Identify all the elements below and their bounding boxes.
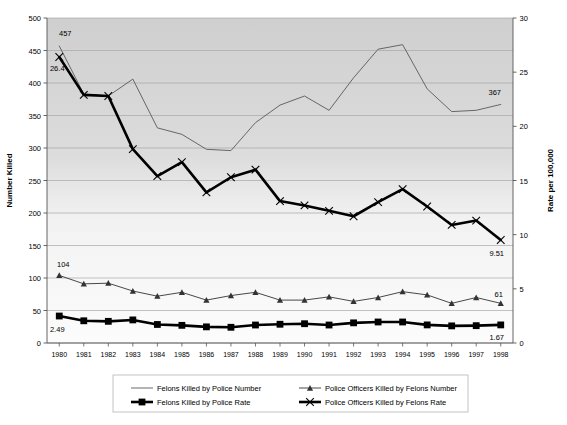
x-axis-tick-label: 1988 — [248, 351, 264, 358]
data-label: 1.67 — [489, 333, 504, 342]
x-axis-tick-label: 1990 — [297, 351, 313, 358]
x-axis-tick-label: 1983 — [125, 351, 141, 358]
left-axis-tick-label: 500 — [28, 14, 41, 23]
x-axis-tick-label: 1984 — [150, 351, 166, 358]
left-axis-tick-label: 350 — [28, 112, 41, 121]
data-label: 9.51 — [489, 249, 504, 258]
chart-container: 050100150200250300350400450500 051015202… — [0, 0, 567, 425]
left-axis-tick-label: 200 — [28, 209, 41, 218]
marker-square — [448, 322, 455, 329]
marker-square — [375, 319, 382, 326]
right-axis-tick-label: 15 — [520, 177, 528, 186]
right-axis-tick-label: 5 — [520, 285, 524, 294]
left-axis-tick-label: 50 — [33, 307, 41, 316]
x-axis-tick-label: 1982 — [101, 351, 117, 358]
x-axis-tick-label: 1995 — [419, 351, 435, 358]
data-label: 26.4 — [50, 64, 65, 73]
marker-square — [497, 322, 504, 329]
marker-square — [326, 322, 333, 329]
legend-label: Police Officers Killed by Felons Rate — [325, 398, 446, 407]
marker-square — [105, 318, 112, 325]
marker-square — [277, 321, 284, 328]
dual-axis-line-chart: 050100150200250300350400450500 051015202… — [0, 0, 567, 425]
left-axis-tick-label: 100 — [28, 274, 41, 283]
marker-square — [350, 319, 357, 326]
marker-square — [301, 320, 308, 327]
x-axis-tick-label: 1998 — [493, 351, 509, 358]
x-axis-tick-label: 1991 — [321, 351, 337, 358]
legend-label: Police Officers Killed by Felons Number — [325, 384, 457, 393]
marker-square — [154, 321, 161, 328]
right-axis-tick-label: 25 — [520, 68, 528, 77]
chart-legend: Felons Killed by Police NumberFelons Kil… — [113, 375, 468, 412]
right-axis-tick-label: 30 — [520, 14, 528, 23]
left-axis-tick-label: 150 — [28, 242, 41, 251]
data-label: 104 — [57, 260, 70, 269]
marker-square — [203, 323, 210, 330]
left-axis-tick-label: 0 — [37, 339, 41, 348]
marker-square — [80, 317, 87, 324]
left-axis-tick-label: 300 — [28, 144, 41, 153]
x-axis-tick-label: 1989 — [272, 351, 288, 358]
left-axis-title: Number Killed — [5, 153, 14, 207]
marker-square — [56, 313, 63, 320]
marker-square — [228, 324, 235, 331]
x-axis-tick-label: 1992 — [346, 351, 362, 358]
marker-square — [129, 317, 136, 324]
x-axis-tick-label: 1997 — [468, 351, 484, 358]
x-axis-tick-label: 1985 — [174, 351, 190, 358]
data-label: 2.49 — [50, 325, 65, 334]
left-axis-tick-label: 400 — [28, 79, 41, 88]
right-axis-tick-label: 20 — [520, 122, 528, 131]
x-axis-tick-label: 1994 — [395, 351, 411, 358]
left-axis-tick-label: 250 — [28, 177, 41, 186]
legend-label: Felons Killed by Police Rate — [157, 398, 250, 407]
x-axis-tick-label: 1980 — [51, 351, 67, 358]
x-axis-tick-label: 1981 — [76, 351, 92, 358]
left-axis-tick-label: 450 — [28, 47, 41, 56]
marker-square — [424, 322, 431, 329]
data-label: 457 — [59, 29, 72, 38]
data-label: 367 — [488, 88, 501, 97]
right-axis-tick-label: 0 — [520, 339, 524, 348]
legend-label: Felons Killed by Police Number — [157, 384, 262, 393]
x-axis-tick-label: 1996 — [444, 351, 460, 358]
marker-square — [473, 322, 480, 329]
marker-square — [139, 399, 146, 406]
marker-square — [252, 322, 259, 329]
marker-square — [178, 322, 185, 329]
right-axis-title: Rate per 100,000 — [546, 148, 555, 212]
x-axis-tick-label: 1986 — [199, 351, 215, 358]
x-axis-tick-label: 1987 — [223, 351, 239, 358]
data-label: 61 — [495, 290, 503, 299]
x-axis-tick-label: 1993 — [370, 351, 386, 358]
marker-square — [399, 319, 406, 326]
right-axis-tick-label: 10 — [520, 231, 528, 240]
